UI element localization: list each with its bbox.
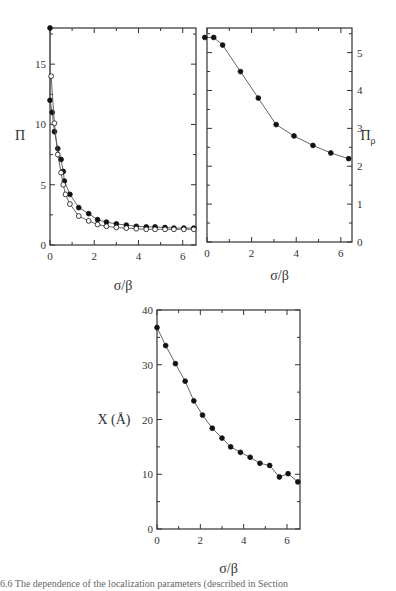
data-point — [248, 455, 253, 460]
y-tick-label: 0 — [148, 523, 154, 535]
y-tick-label: 4 — [357, 84, 363, 96]
data-point — [292, 134, 297, 139]
open-data-point — [153, 227, 158, 232]
data-point — [191, 398, 196, 403]
figure-canvas: 0246051015σ/βΠ0246012345σ/βΠρ02460102030… — [0, 0, 396, 591]
open-data-point — [68, 202, 73, 207]
open-data-point — [181, 227, 186, 232]
y-tick-label: 5 — [41, 179, 47, 191]
data-point — [173, 361, 178, 366]
data-point — [200, 413, 205, 418]
data-point — [220, 436, 225, 441]
x-tick-label: 4 — [136, 250, 142, 262]
open-data-point — [114, 225, 119, 230]
y-tick-label: 15 — [35, 58, 47, 70]
y-tick-label: 0 — [41, 239, 47, 251]
x-tick-label: 4 — [293, 247, 299, 259]
open-data-point — [52, 121, 57, 126]
panel-b: 0246012345σ/βΠρ — [202, 28, 375, 283]
data-point — [238, 450, 243, 455]
data-point — [163, 343, 168, 348]
data-point — [256, 96, 261, 101]
data-point — [211, 35, 216, 40]
open-data-point — [61, 182, 66, 187]
y-tick-label: 40 — [142, 304, 154, 316]
x-tick-label: 2 — [91, 250, 97, 262]
data-point — [48, 26, 53, 31]
x-tick-label: 0 — [154, 534, 160, 546]
open-data-point — [86, 218, 91, 223]
data-point — [155, 325, 160, 330]
open-data-point — [134, 226, 139, 231]
open-data-point — [95, 222, 100, 227]
y-axis-label: Πρ — [360, 128, 375, 146]
y-tick-label: 0 — [357, 236, 363, 248]
data-point — [48, 98, 53, 103]
figure-caption: 6.6 The dependence of the localization p… — [0, 578, 396, 589]
y-tick-label: 30 — [142, 359, 154, 371]
plot-frame — [50, 28, 196, 245]
open-data-point — [104, 224, 109, 229]
series-line — [51, 76, 194, 229]
series-line — [157, 328, 298, 482]
x-tick-label: 2 — [249, 247, 255, 259]
open-data-point — [49, 74, 54, 79]
x-axis-label: σ/β — [114, 278, 133, 293]
data-point — [274, 122, 279, 127]
open-data-point — [55, 152, 60, 157]
y-tick-label: 2 — [357, 160, 363, 172]
data-point — [220, 43, 225, 48]
data-point — [55, 146, 60, 151]
open-data-point — [63, 192, 68, 197]
x-tick-label: 6 — [338, 247, 344, 259]
data-point — [267, 463, 272, 468]
x-tick-label: 6 — [180, 250, 186, 262]
data-point — [346, 156, 351, 161]
open-data-point — [59, 170, 64, 175]
x-axis-label: σ/β — [219, 561, 238, 576]
data-point — [228, 444, 233, 449]
data-point — [210, 426, 215, 431]
series-line — [50, 28, 194, 228]
data-point — [238, 69, 243, 74]
open-data-point — [171, 227, 176, 232]
y-axis-label: Π — [15, 128, 25, 143]
y-tick-label: 1 — [357, 198, 363, 210]
y-tick-label: 20 — [142, 414, 154, 426]
y-axis-label: X (Å) — [97, 412, 130, 428]
plot-frame — [207, 28, 352, 242]
data-point — [311, 143, 316, 148]
panel-c: 0246010203040σ/βX (Å) — [97, 304, 300, 576]
data-point — [295, 480, 300, 485]
open-data-point — [124, 226, 129, 231]
x-tick-label: 0 — [47, 250, 53, 262]
x-tick-label: 2 — [198, 534, 204, 546]
x-tick-label: 0 — [204, 247, 210, 259]
data-point — [86, 211, 91, 216]
x-tick-label: 4 — [241, 534, 247, 546]
data-point — [258, 461, 263, 466]
x-tick-label: 6 — [284, 534, 290, 546]
data-point — [328, 151, 333, 156]
plot-frame — [157, 310, 300, 529]
data-point — [286, 471, 291, 476]
open-data-point — [76, 214, 81, 219]
data-point — [52, 129, 57, 134]
open-data-point — [163, 227, 168, 232]
open-data-point — [191, 227, 196, 232]
data-point — [202, 35, 207, 40]
y-tick-label: 5 — [357, 47, 363, 59]
data-point — [95, 217, 100, 222]
data-point — [183, 379, 188, 384]
y-tick-label: 10 — [35, 118, 47, 130]
open-data-point — [144, 227, 149, 232]
series-line — [205, 37, 349, 158]
x-axis-label: σ/β — [270, 268, 289, 283]
y-tick-label: 10 — [142, 468, 154, 480]
data-point — [277, 475, 282, 480]
panel-a: 0246051015σ/βΠ — [15, 26, 196, 293]
data-point — [76, 205, 81, 210]
